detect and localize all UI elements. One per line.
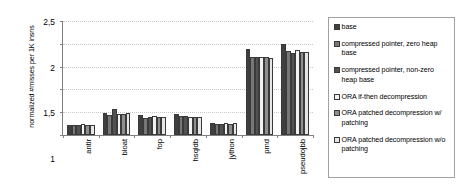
x-axis-tick xyxy=(134,135,135,138)
legend-item: ORA patched decompression w/ patching xyxy=(334,109,450,128)
bar xyxy=(269,58,274,135)
x-axis-tick xyxy=(313,135,314,138)
x-axis-label-fop: fop xyxy=(155,139,164,150)
bar xyxy=(197,117,202,135)
legend-swatch-icon xyxy=(334,137,340,143)
x-axis-label-jython: jython xyxy=(227,139,236,159)
y-axis-tick-label: 1 xyxy=(50,154,55,164)
bars-layer xyxy=(63,21,313,135)
bar xyxy=(233,123,238,135)
y-axis-tick-label: 2,5 xyxy=(43,17,55,27)
legend-swatch-icon xyxy=(334,24,340,30)
x-axis-tick xyxy=(242,135,243,138)
x-axis-tick xyxy=(170,135,171,138)
x-axis-label-hsqldb: hsqldb xyxy=(191,139,200,161)
bar-group-pmd xyxy=(242,21,278,135)
bar-chart-figure: normalized #misses per 1K insns 00,511,5… xyxy=(0,0,459,195)
x-axis-label-antlr: antlr xyxy=(84,139,93,154)
legend-swatch-icon xyxy=(334,94,340,100)
legend-item: base xyxy=(334,23,450,32)
x-axis-tick xyxy=(63,135,64,138)
bar-group-fop xyxy=(134,21,170,135)
y-axis-title: normalized #misses per 1K insns xyxy=(27,2,36,152)
plot-area: 00,511,522,5 antlrbloatfophsqldbjythonpm… xyxy=(62,21,313,136)
x-axis-label-pmd: pmd xyxy=(262,139,271,154)
bar xyxy=(126,113,131,135)
x-axis-tick xyxy=(277,135,278,138)
bar xyxy=(90,125,95,135)
x-axis-tick xyxy=(206,135,207,138)
bar-group-antlr xyxy=(63,21,99,135)
legend-label: compressed pointer, zero heap base xyxy=(342,40,451,59)
y-axis-tick-label: 1,5 xyxy=(43,108,55,118)
bar xyxy=(161,117,166,135)
legend-label: compressed pointer, non-zero heap base xyxy=(342,66,451,85)
legend-item: compressed pointer, zero heap base xyxy=(334,40,450,59)
x-axis-label-bloat: bloat xyxy=(120,139,129,155)
x-axis-tick xyxy=(99,135,100,138)
y-axis-tick-label: 2 xyxy=(50,63,55,73)
x-axis-label-pseudojbb: pseudojbb xyxy=(298,139,307,174)
legend-label: ORA patched decompression w/ patching xyxy=(342,109,451,128)
legend-swatch-icon xyxy=(334,41,340,47)
bar xyxy=(304,52,309,135)
chart-legend: basecompressed pointer, zero heap baseco… xyxy=(328,17,455,178)
legend-label: ORA if-then decompression xyxy=(342,93,428,102)
legend-item: ORA if-then decompression xyxy=(334,93,450,102)
legend-label: ORA patched decompression w/o patching xyxy=(342,136,451,155)
legend-label: base xyxy=(342,23,357,32)
bar-group-pseudojbb xyxy=(277,21,313,135)
bar-group-bloat xyxy=(99,21,135,135)
bar-group-jython xyxy=(206,21,242,135)
legend-swatch-icon xyxy=(334,67,340,73)
legend-item: ORA patched decompression w/o patching xyxy=(334,136,450,155)
legend-swatch-icon xyxy=(334,110,340,116)
bar-group-hsqldb xyxy=(170,21,206,135)
legend-item: compressed pointer, non-zero heap base xyxy=(334,66,450,85)
